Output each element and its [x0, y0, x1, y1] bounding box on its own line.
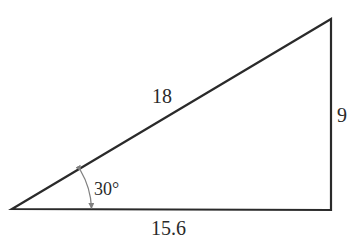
hypotenuse-label: 18 [152, 85, 172, 107]
angle-arc-icon [81, 171, 92, 209]
triangle-diagram: 18 9 15.6 30° [0, 0, 359, 242]
base-label: 15.6 [151, 217, 186, 239]
angle-label: 30° [94, 179, 119, 199]
right-triangle [12, 19, 331, 210]
vertical-side-label: 9 [337, 104, 347, 126]
